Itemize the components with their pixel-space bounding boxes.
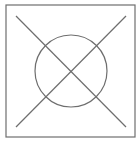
diagram-canvas [0,0,138,147]
diagram-svg [0,0,138,147]
